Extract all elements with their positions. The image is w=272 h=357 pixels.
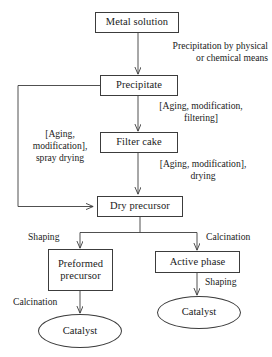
node-catalyst-right-label: Catalyst (182, 306, 216, 319)
node-catalyst-left[interactable]: Catalyst (38, 314, 122, 348)
node-catalyst-right[interactable]: Catalyst (157, 296, 241, 329)
node-filter-cake-label: Filter cake (116, 136, 162, 149)
node-metal-solution[interactable]: Metal solution (95, 12, 179, 33)
edge-label-calcination-right: Calcination (206, 231, 268, 243)
edge-label-aging-filtering: [Aging, modification, filtering] (146, 100, 256, 124)
node-active-phase-label: Active phase (170, 256, 226, 269)
node-dry-precursor[interactable]: Dry precursor (97, 196, 183, 217)
edge-label-precipitation: Precipitation by physical or chemical me… (146, 40, 268, 64)
node-precipitate-label: Precipitate (116, 79, 162, 92)
flowchart-diagram: Metal solution Precipitate Filter cake D… (0, 0, 272, 357)
node-dry-precursor-label: Dry precursor (110, 200, 170, 213)
edge-label-shaping-left: Shaping (28, 231, 78, 243)
node-preformed-precursor[interactable]: Preformed precursor (48, 249, 113, 291)
edge-label-shaping-right: Shaping (205, 276, 255, 288)
edge-label-aging-spray-drying: [Aging, modification], spray drying (23, 128, 97, 165)
edge-label-calcination-left: Calcination (13, 296, 75, 308)
node-metal-solution-label: Metal solution (106, 16, 168, 29)
node-precipitate[interactable]: Precipitate (100, 75, 178, 96)
node-active-phase[interactable]: Active phase (155, 251, 240, 273)
edge-label-aging-drying: [Aging, modification], drying (144, 158, 262, 182)
node-preformed-precursor-label: Preformed precursor (58, 258, 103, 283)
node-filter-cake[interactable]: Filter cake (100, 132, 178, 153)
node-catalyst-left-label: Catalyst (63, 325, 97, 338)
